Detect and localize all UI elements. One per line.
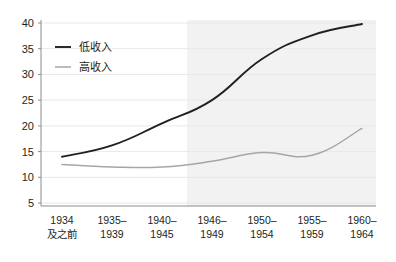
x-tick-label: 1959 bbox=[300, 228, 324, 240]
legend-label-2: 高收入 bbox=[79, 60, 112, 73]
y-tick-label: 15 bbox=[22, 146, 34, 158]
y-tick-label: 5 bbox=[28, 197, 34, 209]
x-tick-label: 1955– bbox=[297, 214, 326, 226]
y-tick-label: 40 bbox=[22, 17, 34, 29]
x-tick-label: 1949 bbox=[200, 228, 224, 240]
x-tick-label: 1946– bbox=[197, 214, 226, 226]
x-tick-label: 1935– bbox=[97, 214, 126, 226]
x-tick-label: 1939 bbox=[100, 228, 124, 240]
line-chart: 510152025303540 1934及之前1935–19391940–194… bbox=[0, 0, 396, 262]
chart-canvas: 510152025303540 1934及之前1935–19391940–194… bbox=[0, 0, 396, 262]
x-tick-label: 及之前 bbox=[47, 228, 77, 240]
x-tick-label: 1940– bbox=[147, 214, 176, 226]
x-tick-label: 1945 bbox=[150, 228, 174, 240]
x-tick-label: 1934 bbox=[50, 214, 74, 226]
x-tick-label: 1964 bbox=[350, 228, 374, 240]
legend-label-1: 低收入 bbox=[79, 40, 112, 53]
y-tick-label: 35 bbox=[22, 43, 34, 55]
x-tick-label: 1960– bbox=[347, 214, 376, 226]
y-tick-label: 10 bbox=[22, 171, 34, 183]
x-tick-label: 1950– bbox=[247, 214, 276, 226]
y-tick-label: 25 bbox=[22, 94, 34, 106]
y-tick-label: 20 bbox=[22, 120, 34, 132]
x-tick-label: 1954 bbox=[250, 228, 274, 240]
y-tick-label: 30 bbox=[22, 68, 34, 80]
